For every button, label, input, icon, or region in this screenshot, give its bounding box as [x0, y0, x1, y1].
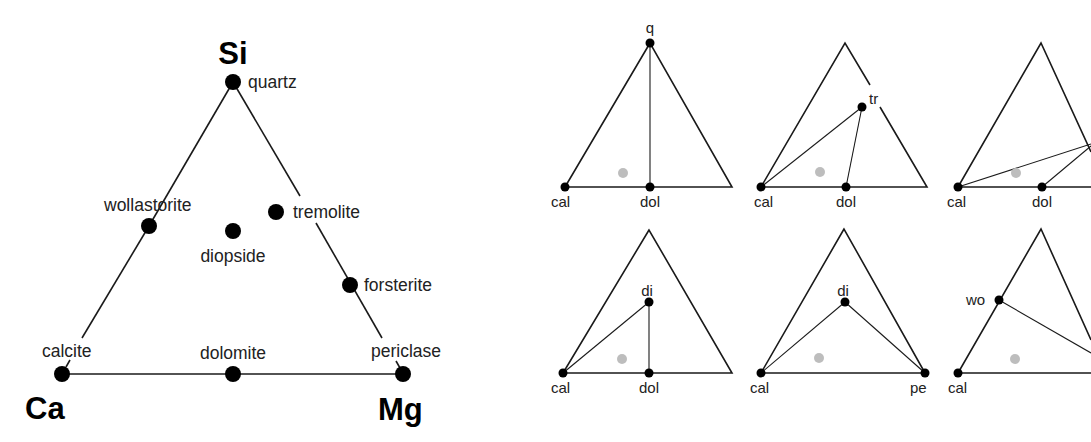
mineral-point-tremolite — [268, 204, 284, 220]
point-dol — [645, 369, 654, 378]
point-cal — [757, 183, 766, 192]
label-wo: wo — [965, 291, 985, 308]
corner-label-ca: Ca — [25, 391, 65, 426]
small-diagram-6: wo cal — [948, 229, 1091, 396]
label-pe: pe — [910, 379, 927, 396]
label-cal: cal — [551, 379, 570, 396]
point-dol — [1038, 183, 1047, 192]
mineral-point-dolomite — [225, 366, 241, 382]
tie-line-cal-di — [563, 302, 649, 373]
point-cal — [757, 369, 766, 378]
point-cal — [559, 369, 568, 378]
label-dol: dol — [1032, 193, 1052, 210]
point-pe — [921, 369, 930, 378]
label-cal: cal — [750, 379, 769, 396]
label-cal: cal — [948, 379, 967, 396]
mineral-point-diopside — [225, 223, 241, 239]
point-cal — [954, 183, 963, 192]
label-di: di — [837, 282, 849, 299]
label-tr: tr — [869, 90, 878, 107]
bulk-composition-point — [618, 168, 628, 178]
mineral-label-dolomite: dolomite — [200, 343, 266, 363]
main-ternary-diagram: Si Ca Mg quartz wollastorite diopside tr… — [25, 36, 441, 427]
label-dol: dol — [640, 193, 660, 210]
mineral-label-wollastorite: wollastorite — [103, 195, 192, 215]
bulk-composition-point — [1010, 354, 1020, 364]
label-cal: cal — [754, 193, 773, 210]
triangle-outline — [565, 43, 732, 187]
label-cal: cal — [551, 193, 570, 210]
mineral-point-forsterite — [342, 277, 358, 293]
mineral-label-quartz: quartz — [248, 72, 297, 92]
small-diagram-2: tr cal dol — [754, 43, 927, 210]
tie-line-cal-di — [761, 302, 845, 373]
bulk-composition-point — [815, 167, 825, 177]
point-cal — [561, 183, 570, 192]
label-cal: cal — [947, 193, 966, 210]
mineral-label-calcite: calcite — [42, 341, 92, 361]
point-dol — [842, 183, 851, 192]
small-diagram-5: di cal pe — [750, 229, 930, 396]
mineral-point-quartz — [225, 74, 241, 90]
bulk-composition-point — [1011, 168, 1021, 178]
tie-line-pe-di — [845, 302, 925, 373]
mineral-label-tremolite: tremolite — [293, 202, 360, 222]
mineral-label-forsterite: forsterite — [364, 275, 432, 295]
mineral-label-diopside: diopside — [200, 246, 265, 266]
mineral-point-calcite — [54, 366, 70, 382]
small-diagram-3: cal dol — [947, 43, 1091, 210]
tie-line-dol-tr — [846, 107, 862, 187]
corner-label-mg: Mg — [378, 392, 423, 427]
bulk-composition-point — [814, 353, 824, 363]
mineral-point-periclase — [395, 366, 411, 382]
edge-si-mg-upper — [233, 82, 300, 196]
tie-line-cal-right — [958, 144, 1091, 187]
mineral-point-wollastorite — [141, 218, 157, 234]
label-dol: dol — [639, 379, 659, 396]
tie-line-cal-tr — [761, 107, 862, 187]
small-diagram-4: di cal dol — [551, 230, 732, 396]
mineral-label-periclase: periclase — [371, 341, 441, 361]
point-dol — [646, 183, 655, 192]
point-cal — [954, 369, 963, 378]
bulk-composition-point — [617, 354, 627, 364]
point-wo — [995, 296, 1004, 305]
edge-calcite-stub — [66, 360, 70, 367]
small-diagram-1: q cal dol — [551, 19, 732, 210]
corner-label-si: Si — [218, 36, 247, 71]
edge-si-ca-lower — [82, 226, 149, 338]
label-q: q — [646, 19, 654, 36]
point-q — [646, 39, 655, 48]
label-di: di — [641, 282, 653, 299]
diagram-canvas: Si Ca Mg quartz wollastorite diopside tr… — [0, 0, 1091, 442]
point-tr — [858, 103, 867, 112]
label-dol: dol — [836, 193, 856, 210]
triangle-outline — [761, 43, 927, 187]
